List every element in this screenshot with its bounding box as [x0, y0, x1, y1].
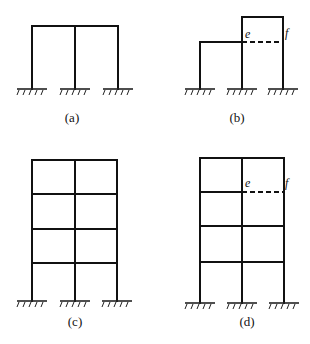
frame-a: (a)	[17, 26, 133, 125]
frame-d: e f (d)	[185, 158, 299, 329]
label-a: (a)	[65, 110, 79, 125]
node-e: e	[245, 27, 251, 41]
node-f: f	[285, 26, 290, 40]
frame-c: (c)	[17, 160, 132, 329]
label-b: (b)	[229, 110, 244, 125]
node-e: e	[245, 176, 251, 190]
frame-b: e f (b)	[185, 17, 298, 125]
label-d: (d)	[239, 314, 254, 329]
label-c: (c)	[68, 314, 82, 329]
node-f: f	[285, 176, 290, 190]
frame-diagrams: (a) e f (b) (c) e f (d)	[0, 0, 310, 344]
